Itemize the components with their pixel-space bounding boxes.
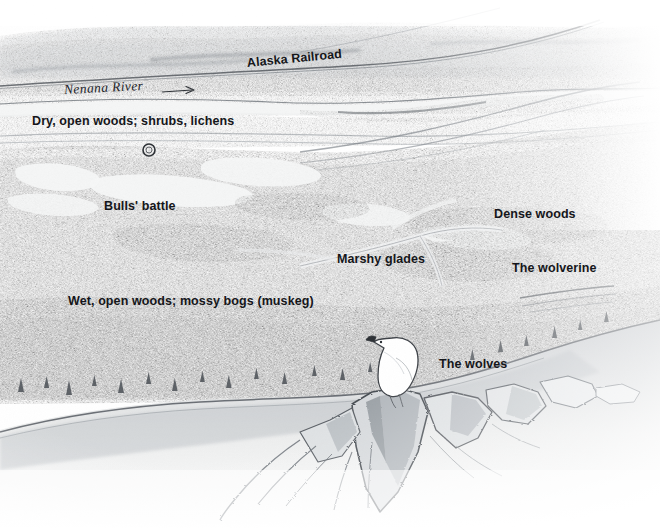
label-the-wolverine: The wolverine bbox=[512, 262, 597, 275]
label-the-wolves: The wolves bbox=[439, 358, 507, 371]
label-marshy-glades: Marshy glades bbox=[337, 253, 425, 266]
label-wet-open-woods: Wet, open woods; mossy bogs (muskeg) bbox=[68, 295, 314, 308]
label-dry-open-woods: Dry, open woods; shrubs, lichens bbox=[32, 115, 234, 128]
label-bulls-battle: Bulls' battle bbox=[104, 200, 176, 213]
illustration-canvas: Alaska Railroad Nenana River Dry, open w… bbox=[0, 0, 660, 528]
label-dense-woods: Dense woods bbox=[494, 208, 576, 221]
